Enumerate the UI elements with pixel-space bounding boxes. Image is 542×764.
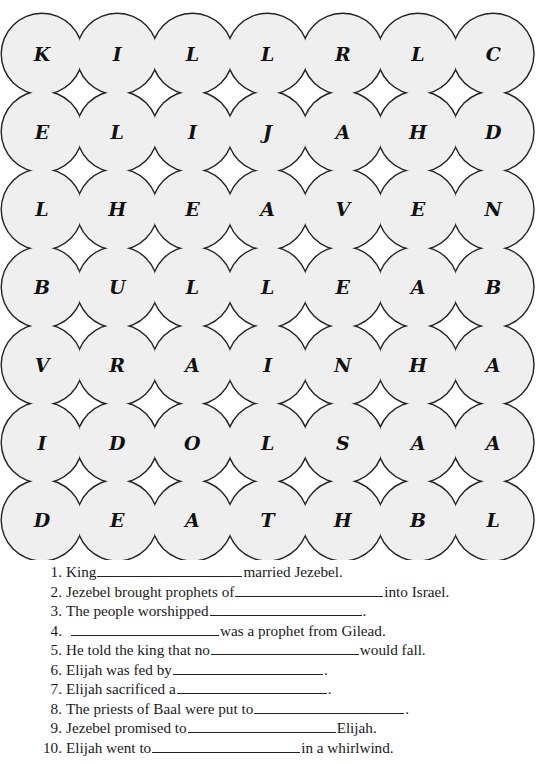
clue-4: 4. was a prophet from Gilead.: [48, 621, 528, 641]
answer-blank[interactable]: [211, 640, 359, 655]
grid-letter: U: [109, 276, 127, 298]
clue-text-after: in a whirlwind.: [301, 738, 393, 758]
grid-letter: T: [261, 509, 277, 531]
grid-letter: D: [108, 432, 126, 454]
clue-text-before: Elijah was fed by: [66, 660, 172, 680]
clue-text-before: Jezebel promised to: [66, 718, 187, 738]
clue-text-before: He told the king that no: [66, 640, 210, 660]
grid-letter: N: [484, 198, 503, 220]
clue-number: 4.: [48, 621, 62, 641]
grid-letter: K: [33, 43, 52, 65]
grid-letter: L: [260, 276, 274, 298]
clue-number: 3.: [48, 601, 62, 621]
grid-letter: L: [34, 198, 48, 220]
grid-letter: D: [33, 509, 51, 531]
grid-letter: J: [260, 121, 274, 143]
grid-letter: E: [184, 198, 200, 220]
clue-number: 1.: [48, 562, 62, 582]
grid-letter: V: [35, 354, 52, 376]
clue-2: 2. Jezebel brought prophets of into Isra…: [48, 582, 528, 602]
clue-number: 8.: [48, 699, 62, 719]
grid-letter: B: [33, 276, 50, 298]
answer-blank[interactable]: [188, 718, 336, 733]
clue-text-after: was a prophet from Gilead.: [220, 621, 386, 641]
grid-letter: B: [484, 276, 501, 298]
grid-letter: B: [409, 509, 426, 531]
grid-letter: L: [410, 43, 424, 65]
grid-letter: A: [333, 121, 350, 143]
grid-letter: A: [484, 432, 501, 454]
grid-letter: H: [333, 509, 353, 531]
answer-blank[interactable]: [177, 679, 327, 694]
answer-blank[interactable]: [97, 562, 242, 577]
grid-letter: L: [185, 276, 199, 298]
word-search-grid: KILLRLCELIJAHDLHEAVENBULLEABVRAINHAIDOLS…: [0, 0, 542, 560]
grid-letter: I: [262, 354, 273, 376]
grid-letter: L: [486, 509, 500, 531]
clue-text-before: The priests of Baal were put to: [66, 699, 253, 719]
grid-letter: H: [107, 198, 127, 220]
clue-text-before: Elijah went to: [66, 738, 151, 758]
clue-text-after: .: [405, 699, 409, 719]
clue-text-after: .: [324, 660, 328, 680]
grid-letter: E: [410, 198, 426, 220]
grid-letter: V: [335, 198, 352, 220]
answer-blank[interactable]: [152, 738, 300, 753]
grid-letter: R: [334, 43, 351, 65]
clue-text-after: .: [328, 679, 332, 699]
grid-letter: I: [37, 432, 48, 454]
clue-8: 8. The priests of Baal were put to .: [48, 699, 528, 719]
grid-letter: E: [34, 121, 50, 143]
answer-blank[interactable]: [210, 601, 362, 616]
clue-number: 9.: [48, 718, 62, 738]
clue-text-after: into Israel.: [384, 582, 449, 602]
grid-letter: R: [108, 354, 125, 376]
clue-5: 5. He told the king that no would fall.: [48, 640, 528, 660]
grid-letter: I: [112, 43, 123, 65]
clue-3: 3. The people worshipped .: [48, 601, 528, 621]
grid-letter: N: [333, 354, 352, 376]
grid-letter: H: [408, 354, 428, 376]
clue-number: 2.: [48, 582, 62, 602]
clue-text-after: would fall.: [360, 640, 426, 660]
grid-letter: A: [183, 354, 200, 376]
clue-text-after: married Jezebel.: [243, 562, 343, 582]
grid-letter: A: [183, 509, 200, 531]
clue-text-before: Elijah sacrificed a: [66, 679, 176, 699]
grid-letter: E: [109, 509, 125, 531]
grid-letter: E: [335, 276, 351, 298]
clue-7: 7. Elijah sacrificed a .: [48, 679, 528, 699]
clue-text-before: King: [66, 562, 96, 582]
clue-text-before: The people worshipped: [66, 601, 209, 621]
clue-1: 1. King married Jezebel.: [48, 562, 528, 582]
grid-letter: L: [260, 43, 274, 65]
clue-list: 1. King married Jezebel. 2. Jezebel brou…: [48, 562, 528, 757]
clue-text-before: Jezebel brought prophets of: [66, 582, 234, 602]
grid-letter: I: [187, 121, 198, 143]
answer-blank[interactable]: [71, 621, 219, 636]
grid-letter: A: [409, 432, 426, 454]
clue-6: 6. Elijah was fed by .: [48, 660, 528, 680]
answer-blank[interactable]: [235, 582, 383, 597]
grid-letter: D: [484, 121, 502, 143]
grid-letter: S: [336, 432, 350, 454]
grid-letter: H: [408, 121, 428, 143]
grid-letter: L: [260, 432, 274, 454]
grid-letter: C: [486, 43, 501, 65]
grid-letter: L: [110, 121, 124, 143]
clue-10: 10. Elijah went to in a whirlwind.: [48, 738, 528, 758]
clue-number: 6.: [48, 660, 62, 680]
grid-letter: L: [185, 43, 199, 65]
clue-text-after: Elijah.: [337, 718, 377, 738]
grid-letter: O: [184, 432, 201, 454]
grid-letter: A: [258, 198, 275, 220]
answer-blank[interactable]: [173, 660, 323, 675]
clue-number: 7.: [48, 679, 62, 699]
grid-letter: A: [484, 354, 501, 376]
grid-letter: A: [409, 276, 426, 298]
clue-9: 9. Jezebel promised to Elijah.: [48, 718, 528, 738]
clue-number: 10.: [40, 738, 62, 758]
clue-number: 5.: [48, 640, 62, 660]
clue-text-after: .: [363, 601, 367, 621]
answer-blank[interactable]: [254, 699, 404, 714]
